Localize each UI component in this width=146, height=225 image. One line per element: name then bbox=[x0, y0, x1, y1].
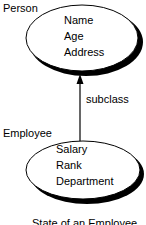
person-class-label: Person bbox=[3, 2, 38, 14]
person-attribute-age: Age bbox=[64, 30, 84, 42]
person-attribute-address: Address bbox=[64, 46, 104, 58]
employee-class-label: Employee bbox=[3, 127, 52, 139]
diagram-caption: State of an Employee bbox=[32, 217, 137, 225]
employee-attribute-department: Department bbox=[56, 175, 113, 187]
person-attribute-name: Name bbox=[64, 14, 93, 26]
relationship-label: subclass bbox=[86, 93, 129, 105]
employee-attribute-rank: Rank bbox=[56, 159, 82, 171]
employee-attribute-salary: Salary bbox=[56, 143, 87, 155]
